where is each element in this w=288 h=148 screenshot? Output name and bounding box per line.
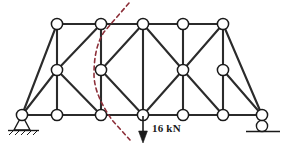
truss-joint <box>217 64 228 75</box>
truss-joint <box>95 109 106 120</box>
truss-joint <box>137 18 148 29</box>
truss-joint <box>51 18 62 29</box>
truss-member <box>101 70 143 115</box>
truss-member <box>183 24 223 70</box>
truss-joint <box>217 18 228 29</box>
truss-joint <box>95 18 106 29</box>
truss-diagram-canvas: 16 kN <box>0 0 288 148</box>
load-arrow-head-icon <box>139 131 148 143</box>
truss-joint <box>16 109 27 120</box>
truss-member <box>143 24 183 70</box>
truss-member <box>22 70 57 115</box>
truss-joint <box>217 109 228 120</box>
truss-member <box>143 70 183 115</box>
truss-member <box>183 70 223 115</box>
truss-member <box>223 70 262 115</box>
truss-figure <box>0 0 288 148</box>
pin-ground-hatch <box>9 131 37 135</box>
truss-joint <box>95 64 106 75</box>
truss-joint <box>177 64 188 75</box>
support-roller <box>246 120 280 131</box>
truss-joint <box>51 109 62 120</box>
truss-joint <box>51 64 62 75</box>
roller-circle-icon <box>256 120 267 131</box>
truss-joint <box>177 109 188 120</box>
truss-joint <box>256 109 267 120</box>
truss-joint <box>177 18 188 29</box>
load-label: 16 kN <box>152 122 181 134</box>
truss-member <box>101 24 143 70</box>
